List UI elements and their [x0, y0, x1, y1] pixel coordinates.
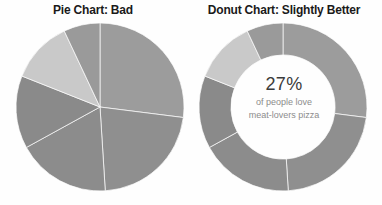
donut-chart-graphic	[186, 0, 382, 205]
chart-comparison-figure: Pie Chart: Bad Donut Chart: Slightly Bet…	[0, 0, 382, 205]
chart-slice	[286, 114, 366, 191]
chart-slice	[100, 107, 183, 191]
pie-chart-panel: Pie Chart: Bad	[0, 0, 186, 205]
chart-slice	[283, 23, 367, 118]
chart-slice	[100, 23, 184, 118]
donut-chart-panel: Donut Chart: Slightly Better 27% of peop…	[186, 0, 382, 205]
pie-chart-graphic	[0, 0, 186, 205]
